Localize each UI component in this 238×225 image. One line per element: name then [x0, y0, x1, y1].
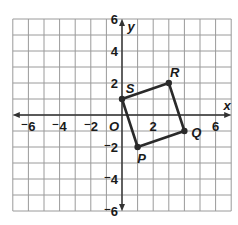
y-axis-arrow-down-icon — [119, 204, 125, 211]
y-tick-label: ⁻2 — [104, 140, 118, 155]
vertex-point-q — [181, 128, 187, 134]
y-axis-label: y — [126, 19, 135, 34]
coordinate-plane: ⁻6⁻4⁻226642⁻2⁻4⁻6xyOPQRS — [0, 0, 238, 225]
vertex-label-p: P — [137, 151, 146, 166]
x-tick-label: 6 — [212, 119, 219, 134]
x-tick-label: ⁻2 — [84, 119, 98, 134]
vertex-point-r — [166, 80, 172, 86]
x-axis-label: x — [223, 98, 232, 113]
y-axis-arrow-up-icon — [119, 19, 125, 26]
x-tick-label: ⁻4 — [52, 119, 67, 134]
y-tick-label: 4 — [111, 44, 119, 59]
y-tick-label: ⁻4 — [104, 172, 119, 187]
x-axis-arrow-left-icon — [13, 112, 20, 118]
vertex-label-q: Q — [191, 125, 201, 140]
y-tick-label: 2 — [111, 76, 118, 91]
y-tick-label: 6 — [111, 12, 118, 27]
axes — [13, 19, 231, 211]
y-tick-label: ⁻6 — [104, 204, 118, 219]
vertex-label-s: S — [126, 81, 135, 96]
vertex-point-s — [119, 96, 125, 102]
origin-label: O — [109, 119, 119, 134]
vertex-point-p — [134, 144, 140, 150]
x-tick-label: ⁻6 — [21, 119, 35, 134]
x-tick-label: 2 — [150, 119, 157, 134]
vertex-label-r: R — [170, 65, 180, 80]
